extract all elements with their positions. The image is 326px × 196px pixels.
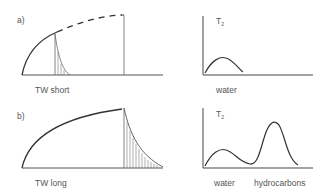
peak-label-water-a: water xyxy=(216,86,237,95)
wait-time-label-a: TW short xyxy=(35,86,69,95)
panel-a-label: a) xyxy=(17,16,25,25)
buildup-dashed-a xyxy=(57,15,122,32)
decay-curve-a xyxy=(55,34,70,75)
peak-label-water-b: water xyxy=(214,179,235,188)
diagram-canvas xyxy=(0,0,326,196)
buildup-curve-b xyxy=(22,109,122,168)
water-peak-a xyxy=(205,58,243,73)
panel-a-buildup xyxy=(22,15,163,75)
water-hydrocarbon-peaks-b xyxy=(205,122,298,166)
t2-axis-label-a: T2 xyxy=(216,17,224,27)
buildup-curve-a xyxy=(22,32,57,75)
hatching-b xyxy=(127,122,157,168)
peak-label-hydrocarbons-b: hydrocarbons xyxy=(254,179,306,188)
wait-time-label-b: TW long xyxy=(35,179,67,188)
t2-axis-label-b: T2 xyxy=(216,110,224,120)
panel-b-label: b) xyxy=(17,112,25,121)
panel-b-buildup xyxy=(22,108,163,168)
